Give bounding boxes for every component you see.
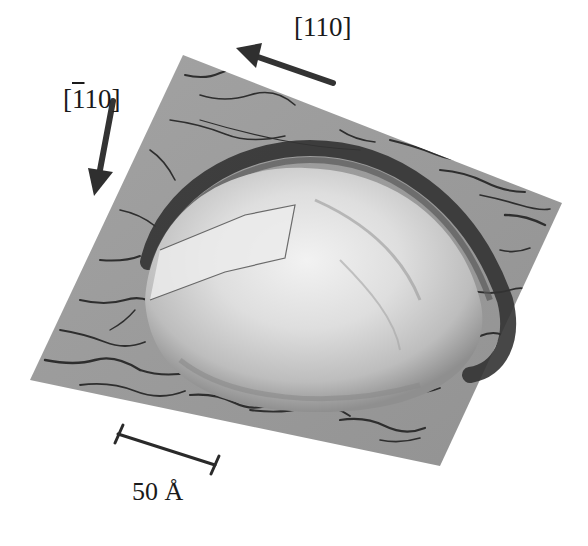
arrow-minus110-icon xyxy=(88,101,113,196)
label-bracket-open: [ xyxy=(63,84,72,114)
arrow-110-icon xyxy=(236,43,333,83)
scale-bar xyxy=(115,425,219,474)
label-rest: 10] xyxy=(85,84,121,114)
stm-topograph-figure xyxy=(0,0,588,546)
direction-label-minus110: [110] xyxy=(63,86,121,113)
scale-bar-label: 50 Å xyxy=(132,479,183,505)
direction-label-110: [110] xyxy=(294,14,351,41)
label-bar-digit: 1 xyxy=(72,84,85,114)
